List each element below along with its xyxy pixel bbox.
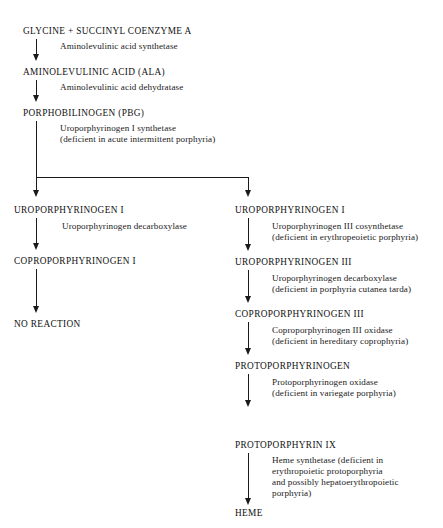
enzyme-uro-iii-cosynthetase-line1: Uroporphyrinogen III cosynthetase bbox=[272, 221, 403, 232]
node-aminolevulinic-acid: AMINOLEVULINIC ACID (ALA) bbox=[23, 67, 165, 78]
node-right-uroporphyrinogen-i: UROPORPHYRINOGEN I bbox=[235, 205, 345, 216]
enzyme-copro-iii-oxidase-line2: (deficient in hereditary coprophyria) bbox=[272, 336, 408, 347]
node-uroporphyrinogen-iii: UROPORPHYRINOGEN III bbox=[235, 257, 352, 268]
enzyme-left-uro-decarboxylase: Uroporphyrinogen decarboxylase bbox=[62, 221, 187, 232]
enzyme-heme-synthetase-line3: and possibly hepatoerythropoietic bbox=[272, 477, 399, 488]
node-glycine-succinyl-coa: GLYCINE + SUCCINYL COENZYME A bbox=[23, 26, 192, 37]
node-heme: HEME bbox=[235, 508, 263, 519]
enzyme-protoporphyrinogen-oxidase-line2: (deficient in variegate porphyria) bbox=[272, 388, 396, 399]
node-no-reaction: NO REACTION bbox=[14, 319, 81, 330]
enzyme-ala-dehydratase: Aminolevulinic acid dehydratase bbox=[60, 82, 183, 93]
branch-crossbar bbox=[36, 177, 249, 178]
enzyme-heme-synthetase-line1: Heme synthetase (deficient in bbox=[272, 455, 383, 466]
enzyme-heme-synthetase-line2: erythropoietic protoporphyria bbox=[272, 466, 383, 477]
node-coproporphyrinogen-iii: COPROPORPHYRINOGEN III bbox=[235, 309, 364, 320]
enzyme-uro-decarboxylase-iii-line1: Uroporphyrinogen decarboxylase bbox=[272, 273, 397, 284]
branch-stem bbox=[36, 121, 37, 178]
node-left-coproporphyrinogen-i: COPROPORPHYRINOGEN I bbox=[14, 256, 136, 267]
node-left-uroporphyrinogen-i: UROPORPHYRINOGEN I bbox=[14, 205, 124, 216]
node-protoporphyrinogen: PROTOPORPHYRINOGEN bbox=[235, 361, 350, 372]
node-protoporphyrin-ix: PROTOPORPHYRIN IX bbox=[235, 440, 336, 451]
enzyme-heme-synthetase-line4: porphyria) bbox=[272, 488, 311, 499]
heme-biosynthesis-pathway-diagram: GLYCINE + SUCCINYL COENZYME A Aminolevul… bbox=[0, 0, 443, 528]
enzyme-uro-decarboxylase-iii-line2: (deficient in porphyria cutanea tarda) bbox=[272, 284, 411, 295]
enzyme-protoporphyrinogen-oxidase-line1: Protoporphyrinogen oxidase bbox=[272, 377, 378, 388]
enzyme-uro-i-synthetase-line1: Uroporphyrinogen I synthetase bbox=[60, 123, 176, 134]
enzyme-ala-synthetase: Aminolevulinic acid synthetase bbox=[60, 41, 178, 52]
enzyme-uro-iii-cosynthetase-line2: (deficient in erythropeoietic porphyria) bbox=[272, 232, 418, 243]
enzyme-copro-iii-oxidase-line1: Coproporphyrinogen III oxidase bbox=[272, 325, 393, 336]
node-porphobilinogen: PORPHOBILINOGEN (PBG) bbox=[23, 108, 144, 119]
enzyme-uro-i-synthetase-line2: (deficient in acute intermittent porphyr… bbox=[60, 134, 215, 145]
